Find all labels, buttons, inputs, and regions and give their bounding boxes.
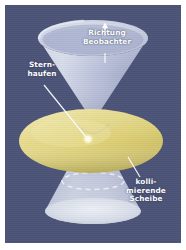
illustration-plate: Richtung Beobachter Stern- haufen kolli-… (5, 5, 181, 243)
upper-outflow-cone (38, 20, 148, 122)
star-core (85, 136, 90, 141)
figure-container: Richtung Beobachter Stern- haufen kolli-… (0, 0, 186, 250)
disk-highlight (31, 119, 111, 147)
upper-cone-rim-inner-highlight (45, 28, 139, 54)
lower-cone-rim (45, 198, 141, 224)
diagram-svg (5, 5, 181, 243)
